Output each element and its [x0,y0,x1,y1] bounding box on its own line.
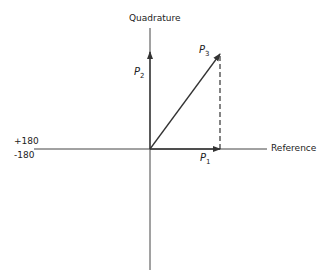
plus-180-label: +180 [14,137,39,146]
p1-label: P1 [200,153,211,166]
reference-label: Reference [271,144,316,153]
minus-180-label: -180 [14,151,34,160]
p2-label: P2 [134,67,145,80]
phasor-diagram [0,0,326,279]
quadrature-label: Quadrature [129,14,181,23]
p3-arrow [150,54,220,149]
p3-label: P3 [199,45,210,58]
